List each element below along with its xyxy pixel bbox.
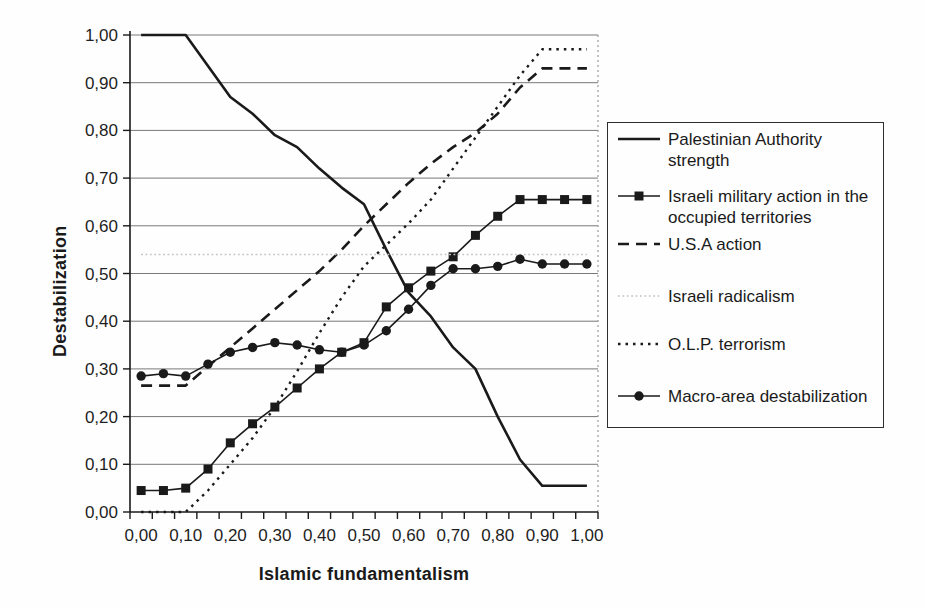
legend-label: Palestinian Authority strength: [668, 129, 873, 171]
x-axis-title: Islamic fundamentalism: [130, 564, 598, 585]
x-tick-label: 0,70: [437, 526, 470, 545]
series-5-circle-marker: [538, 259, 547, 268]
series-1-square-marker: [471, 231, 480, 240]
series-5-circle-marker: [382, 326, 391, 335]
y-tick-label: 0,50: [85, 265, 118, 284]
y-tick-label: 1,00: [85, 26, 118, 45]
y-tick-label: 0,80: [85, 121, 118, 140]
x-tick-label: 0,10: [169, 526, 202, 545]
legend-label: U.S.A action: [668, 234, 762, 255]
series-5-circle-marker: [448, 264, 457, 273]
series-5-circle-marker: [136, 371, 145, 380]
series-1-square-marker: [315, 364, 324, 373]
series-line-2: [141, 68, 587, 385]
series-5-circle-marker: [582, 259, 591, 268]
series-1-square-marker: [404, 283, 413, 292]
series-5-circle-marker: [248, 343, 257, 352]
x-tick-label: 0,40: [303, 526, 336, 545]
series-5-circle-marker: [471, 264, 480, 273]
y-tick-label: 0,30: [85, 360, 118, 379]
y-tick-label: 0,10: [85, 455, 118, 474]
series-1-square-marker: [137, 486, 146, 495]
y-tick-label: 0,20: [85, 408, 118, 427]
series-5-circle-marker: [292, 340, 301, 349]
legend-symbol-solid-circle: [618, 386, 660, 406]
y-axis-title: Destabilization: [50, 225, 71, 357]
series-1-square-marker: [248, 419, 257, 428]
x-tick-label: 0,50: [347, 526, 380, 545]
y-tick-label: 0,60: [85, 217, 118, 236]
series-5-circle-marker: [493, 262, 502, 271]
x-tick-label: 0,20: [214, 526, 247, 545]
series-5-circle-marker: [560, 259, 569, 268]
series-line-4: [141, 49, 587, 512]
series-1-square-marker: [270, 403, 279, 412]
x-tick-label: 0,60: [392, 526, 425, 545]
legend-label: O.L.P. terrorism: [668, 334, 786, 355]
legend-item: Israeli military action in the occupied …: [618, 186, 875, 228]
legend-item: Macro-area destabilization: [618, 386, 875, 407]
legend-label: Israeli military action in the occupied …: [668, 186, 873, 228]
series-5-circle-marker: [226, 348, 235, 357]
legend-symbol-fine-dotted: [618, 286, 660, 306]
x-tick-label: 1,00: [570, 526, 603, 545]
legend-label: Macro-area destabilization: [668, 386, 867, 407]
legend-symbol-dotted: [618, 334, 660, 354]
series-1-square-marker: [493, 212, 502, 221]
series-line-5: [141, 259, 587, 376]
legend-item: Palestinian Authority strength: [618, 129, 875, 171]
series-5-circle-marker: [270, 338, 279, 347]
series-5-circle-marker: [404, 305, 413, 314]
chart-figure: 0,000,100,200,300,400,500,600,700,800,90…: [0, 0, 925, 608]
series-5-circle-marker: [337, 348, 346, 357]
series-1-square-marker: [382, 302, 391, 311]
series-5-circle-marker: [515, 254, 524, 263]
y-tick-label: 0,70: [85, 169, 118, 188]
series-1-square-marker: [516, 195, 525, 204]
legend-symbol-dashed: [618, 234, 660, 254]
legend-item: Israeli radicalism: [618, 286, 875, 307]
series-1-square-marker: [181, 484, 190, 493]
x-tick-label: 0,90: [526, 526, 559, 545]
y-tick-label: 0,90: [85, 74, 118, 93]
series-1-square-marker: [293, 383, 302, 392]
series-5-circle-marker: [159, 369, 168, 378]
x-tick-label: 0,30: [258, 526, 291, 545]
series-1-square-marker: [226, 438, 235, 447]
series-5-circle-marker: [359, 340, 368, 349]
legend-item: O.L.P. terrorism: [618, 334, 875, 355]
series-5-circle-marker: [426, 281, 435, 290]
series-1-square-marker: [159, 486, 168, 495]
legend-item: U.S.A action: [618, 234, 875, 255]
series-1-square-marker: [204, 465, 213, 474]
series-5-circle-marker: [315, 345, 324, 354]
series-5-circle-marker: [181, 371, 190, 380]
series-1-square-marker: [426, 267, 435, 276]
series-1-square-marker: [538, 195, 547, 204]
series-5-circle-marker: [203, 359, 212, 368]
legend-symbol-solid-square: [618, 186, 660, 206]
chart-legend: Palestinian Authority strengthIsraeli mi…: [607, 122, 884, 428]
series-1-square-marker: [560, 195, 569, 204]
x-tick-label: 0,00: [125, 526, 158, 545]
y-tick-label: 0,00: [85, 503, 118, 522]
legend-symbol-solid: [618, 129, 660, 149]
series-1-square-marker: [582, 195, 591, 204]
x-tick-label: 0,80: [481, 526, 514, 545]
legend-label: Israeli radicalism: [668, 286, 795, 307]
y-tick-label: 0,40: [85, 312, 118, 331]
